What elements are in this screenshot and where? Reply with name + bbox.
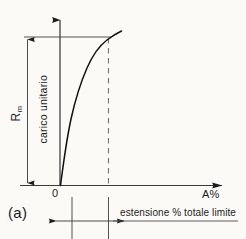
stress-dimension-subscript: m [15, 106, 24, 112]
origin-label: 0 [52, 188, 58, 199]
figure-caption: (a) [8, 205, 27, 220]
stress-strain-figure: 0 A% carico unitario Rm estensione % tot… [0, 0, 246, 239]
stress-dimension-symbol: R [9, 113, 23, 122]
extension-dimension-label: estensione % totale limite [120, 208, 236, 218]
x-axis-label: A% [202, 189, 220, 200]
y-axis-label: carico unitario [38, 54, 49, 164]
stress-dimension-label: Rm [10, 92, 22, 136]
stress-strain-curve [61, 31, 122, 186]
